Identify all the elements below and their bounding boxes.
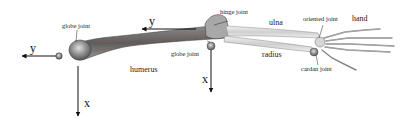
ulna-bone <box>226 26 320 38</box>
wrist-joints <box>310 37 325 56</box>
shoulder-origin <box>56 53 62 59</box>
hand-bones <box>322 29 394 70</box>
elbow-y-label: y <box>149 15 155 27</box>
label-shoulder-globe-joint: globe joint <box>62 23 90 30</box>
forearm-bones <box>224 26 320 52</box>
label-cardan-joint: cardan joint <box>301 66 332 73</box>
shoulder-y-label: y <box>30 42 36 54</box>
elbow-globe-joint <box>207 42 215 50</box>
elbow-joint <box>205 15 230 50</box>
shoulder-axes <box>22 53 78 116</box>
humerus-bone <box>69 26 224 60</box>
humeral-head <box>69 40 91 60</box>
label-radius: radius <box>262 51 282 59</box>
label-ulna: ulna <box>269 19 283 27</box>
label-humerus: humerus <box>130 66 158 74</box>
elbow-x-label: x <box>202 73 208 85</box>
shoulder-x-label: x <box>84 97 90 109</box>
label-oriented-joint: oriented joint <box>303 16 338 23</box>
label-hand: hand <box>352 15 368 23</box>
label-elbow-globe-joint: globe joint <box>171 51 199 58</box>
label-hinge-joint: hinge joint <box>220 9 248 16</box>
